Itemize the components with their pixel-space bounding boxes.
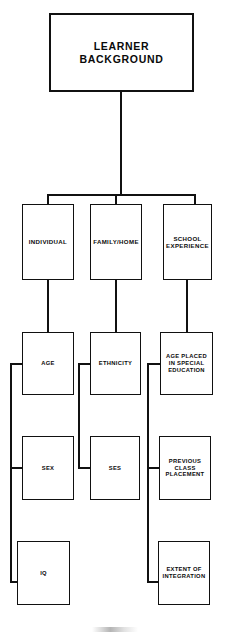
- node-age: AGE: [22, 332, 74, 395]
- node-label-family-home: FAMILY/HOME: [91, 238, 141, 245]
- node-label-learner-background: LEARNER BACKGROUND: [51, 40, 192, 65]
- node-label-previous-class-placement: PREVIOUS CLASS PLACEMENT: [164, 458, 207, 478]
- node-previous-class-placement: PREVIOUS CLASS PLACEMENT: [159, 436, 211, 500]
- node-label-age: AGE: [39, 360, 56, 367]
- node-label-extent-of-integration: EXTENT OF INTEGRATION: [161, 566, 208, 580]
- node-ses: SES: [90, 436, 140, 500]
- connector-family-to-ethnicity: [115, 280, 117, 333]
- node-label-iq: IQ: [38, 570, 49, 577]
- connector-root-stem: [120, 92, 122, 195]
- connector-spine-individual: [10, 363, 12, 582]
- connector-spine-family: [78, 363, 80, 468]
- node-learner-background: LEARNER BACKGROUND: [49, 13, 194, 92]
- connector-spine-school: [147, 363, 149, 582]
- node-family-home: FAMILY/HOME: [90, 204, 142, 280]
- diagram-canvas: LEARNER BACKGROUND INDIVIDUAL FAMILY/HOM…: [0, 0, 230, 638]
- node-label-individual: INDIVIDUAL: [27, 238, 69, 245]
- node-school-experience: SCHOOL EXPERIENCE: [163, 204, 212, 280]
- connector-individual-to-age: [47, 280, 49, 333]
- node-individual: INDIVIDUAL: [22, 204, 74, 280]
- node-label-sex: SEX: [40, 465, 57, 472]
- node-age-placed-in-special-education: AGE PLACED IN SPECIAL EDUCATION: [160, 332, 213, 395]
- connector-stub-ageplaced: [147, 363, 161, 365]
- node-label-age-placed-in-special-education: AGE PLACED IN SPECIAL EDUCATION: [164, 353, 209, 373]
- cropped-caption-artifact: [92, 627, 138, 632]
- node-sex: SEX: [22, 436, 74, 500]
- node-ethnicity: ETHNICITY: [90, 332, 141, 395]
- node-label-ethnicity: ETHNICITY: [97, 360, 134, 367]
- connector-category-bus: [47, 194, 195, 196]
- node-extent-of-integration: EXTENT OF INTEGRATION: [158, 541, 210, 605]
- node-label-ses: SES: [107, 465, 124, 472]
- connector-school-to-ageplaced: [186, 280, 188, 333]
- node-label-school-experience: SCHOOL EXPERIENCE: [164, 235, 211, 249]
- node-iq: IQ: [17, 541, 70, 605]
